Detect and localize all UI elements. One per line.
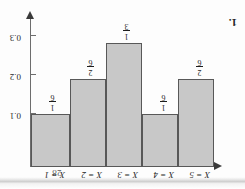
value-label-x-3: 1 3 [123,22,130,40]
bar-x-3 [106,43,142,167]
bar-x-2 [70,79,106,167]
y-tick-label: 0.1 [10,111,21,121]
y-axis-arrow-icon [27,11,35,19]
bar-x-4 [142,114,178,167]
y-tick-mark [30,35,36,36]
value-label-x-2: 2 6 [87,58,94,76]
fraction-numerator: 1 [49,103,56,111]
fraction-denominator: 6 [160,93,167,101]
y-tick-label: 0.2 [10,72,21,82]
x-axis-arrow-icon [214,163,222,171]
fraction-denominator: 6 [196,58,203,66]
fraction-denominator: 6 [87,58,94,66]
fraction-numerator: 1 [123,32,130,40]
bar-x-1 [31,114,70,167]
y-tick-mark [30,74,36,75]
probability-histogram: 0.1 0.2 0.3 X = 5 X = 4 X = 3 X = 2 X = … [30,17,215,167]
value-label-x-4: 1 6 [160,93,167,111]
y-tick-label: 0.3 [10,33,21,43]
category-label-x-5: X = 5 [189,170,210,180]
fraction-denominator: 6 [49,93,56,101]
category-label-x-2: X = 2 [81,170,102,180]
value-label-x-1: 1 6 [49,93,56,111]
category-label-x-1: X = 1 [44,170,65,180]
fraction-numerator: 2 [196,68,203,76]
category-label-x-3: X = 3 [117,170,138,180]
bar-x-5 [178,79,214,167]
value-label-x-5: 2 6 [196,58,203,76]
fraction-numerator: 1 [160,103,167,111]
category-label-x-4: X = 4 [153,170,174,180]
fraction-numerator: 2 [87,68,94,76]
figure-label: 1. [229,17,237,29]
fraction-denominator: 3 [123,22,130,30]
scanned-page: 28 1. 0.1 0.2 0.3 X = 5 X = [0,0,245,189]
